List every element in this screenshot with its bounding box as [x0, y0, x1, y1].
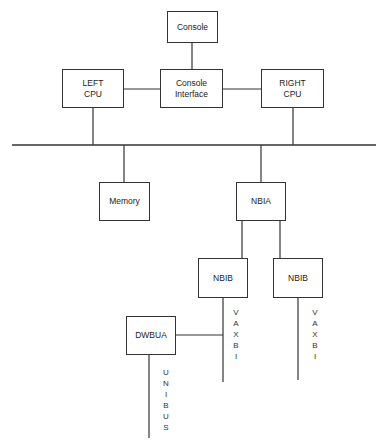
vaxbi-1-char: X [231, 329, 241, 340]
nbia-box: NBIA [236, 182, 286, 221]
unibus-char: I [161, 389, 171, 400]
console-box: Console [167, 11, 218, 43]
unibus-char: U [161, 411, 171, 422]
unibus-label: U N I B U S [161, 367, 171, 433]
right-cpu-label-1: RIGHT [279, 78, 305, 89]
memory-box: Memory [99, 182, 150, 221]
nbia-label: NBIA [251, 196, 271, 207]
vaxbi-1-char: I [231, 351, 241, 362]
left-cpu-label-1: LEFT [83, 78, 104, 89]
vaxbi-2-char: A [310, 318, 320, 329]
unibus-char: U [161, 367, 171, 378]
nbib-box-2: NBIB [273, 258, 323, 298]
vaxbi-1-char: B [231, 340, 241, 351]
console-interface-label-2: Interface [175, 89, 208, 100]
vaxbi-1-char: A [231, 318, 241, 329]
vaxbi-label-2: V A X B I [310, 307, 320, 362]
vaxbi-2-char: I [310, 351, 320, 362]
right-cpu-label-2: CPU [284, 89, 302, 100]
left-cpu-box: LEFT CPU [62, 69, 124, 108]
vaxbi-2-char: B [310, 340, 320, 351]
memory-label: Memory [109, 196, 140, 207]
vaxbi-2-char: V [310, 307, 320, 318]
unibus-char: S [161, 422, 171, 433]
connection-lines [0, 0, 387, 447]
vaxbi-label-1: V A X B I [231, 307, 241, 362]
vaxbi-2-char: X [310, 329, 320, 340]
unibus-char: B [161, 400, 171, 411]
console-label: Console [177, 22, 208, 33]
unibus-char: N [161, 378, 171, 389]
nbib-2-label: NBIB [288, 273, 308, 284]
dwbua-label: DWBUA [135, 330, 167, 341]
right-cpu-box: RIGHT CPU [261, 69, 324, 108]
nbib-1-label: NBIB [213, 273, 233, 284]
dwbua-box: DWBUA [126, 316, 176, 355]
console-interface-label-1: Console [176, 78, 207, 89]
console-interface-box: Console Interface [160, 69, 223, 108]
vaxbi-1-char: V [231, 307, 241, 318]
nbib-box-1: NBIB [198, 258, 248, 298]
left-cpu-label-2: CPU [84, 89, 102, 100]
